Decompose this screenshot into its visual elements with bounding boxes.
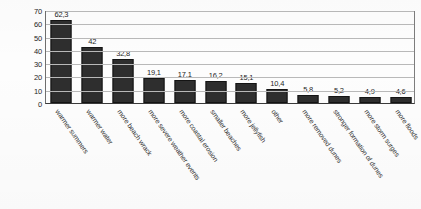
bar[interactable] (205, 81, 226, 103)
gridline (46, 64, 414, 65)
x-label-slot: more beach wrack (107, 105, 138, 209)
bar[interactable] (236, 83, 257, 103)
gridline (46, 77, 414, 78)
y-axis-tick-label: 40 (22, 46, 42, 55)
bar[interactable] (82, 47, 103, 103)
y-axis-tick-label: 20 (22, 73, 42, 82)
x-label-slot: more coastal erosion (168, 105, 199, 209)
x-label-slot: more severe weather events (138, 105, 169, 209)
x-axis-category-labels: warmer summerswarmer watermore beach wra… (45, 105, 415, 209)
x-label-slot: warmer water (76, 105, 107, 209)
x-label-slot: more jellyfish (230, 105, 261, 209)
y-axis-tick-label: 50 (22, 33, 42, 42)
x-label-slot: other (261, 105, 292, 209)
y-axis-tick-label: 60 (22, 20, 42, 29)
y-axis-tick-labels: 010203040506070 (22, 8, 42, 106)
x-label-slot: more storm surges (353, 105, 384, 209)
bar-value-label: 10,4 (270, 79, 284, 88)
gridline (46, 38, 414, 39)
bar-value-label: 16,2 (209, 71, 223, 80)
x-axis-category-label: other (271, 108, 285, 124)
plot-area: 62,34232,819,117,116,215,110,45,85,24,94… (45, 11, 415, 104)
bar-value-label: 19,1 (147, 68, 161, 77)
bar[interactable] (113, 59, 134, 103)
bar[interactable] (390, 97, 411, 103)
gridline (46, 91, 414, 92)
y-axis-tick-label: 0 (22, 100, 42, 109)
gridline (46, 51, 414, 52)
bar[interactable] (328, 96, 349, 103)
bar[interactable] (298, 95, 319, 103)
bar-chart: percent (%) 010203040506070 62,34232,819… (0, 0, 421, 209)
x-label-slot: more removed dunes (292, 105, 323, 209)
x-label-slot: smaller beaches (199, 105, 230, 209)
bar[interactable] (359, 97, 380, 104)
y-axis-tick-label: 10 (22, 86, 42, 95)
x-label-slot: more floods (384, 105, 415, 209)
x-label-slot: warmer summers (45, 105, 76, 209)
y-axis-tick-label: 30 (22, 60, 42, 69)
gridline (46, 11, 414, 12)
y-axis-tick-label: 70 (22, 7, 42, 16)
x-label-slot: stronger formation of dunes (323, 105, 354, 209)
gridline (46, 24, 414, 25)
x-axis-category-label: more floods (394, 108, 420, 141)
